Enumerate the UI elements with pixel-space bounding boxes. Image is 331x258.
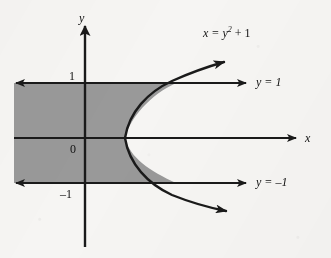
coordinate-plane-svg bbox=[0, 0, 331, 258]
y-axis-label: y bbox=[79, 12, 84, 24]
math-figure: y x 0 1 –1 y = 1 y = –1 x = y2+ 1 bbox=[0, 0, 331, 258]
x-axis-label: x bbox=[305, 132, 310, 144]
y-tick-label-minus-1: –1 bbox=[60, 188, 72, 200]
origin-label: 0 bbox=[70, 143, 76, 155]
label-y-equals-minus-1: y = –1 bbox=[256, 176, 287, 188]
equation-exponent: 2 bbox=[228, 25, 232, 34]
label-parabola-equation: x = y2+ 1 bbox=[203, 26, 251, 39]
equation-prefix: x = y bbox=[203, 26, 228, 40]
y-tick-label-1: 1 bbox=[69, 70, 75, 82]
shaded-region bbox=[14, 83, 176, 183]
label-y-equals-1: y = 1 bbox=[256, 76, 281, 88]
equation-suffix: + 1 bbox=[235, 26, 251, 40]
